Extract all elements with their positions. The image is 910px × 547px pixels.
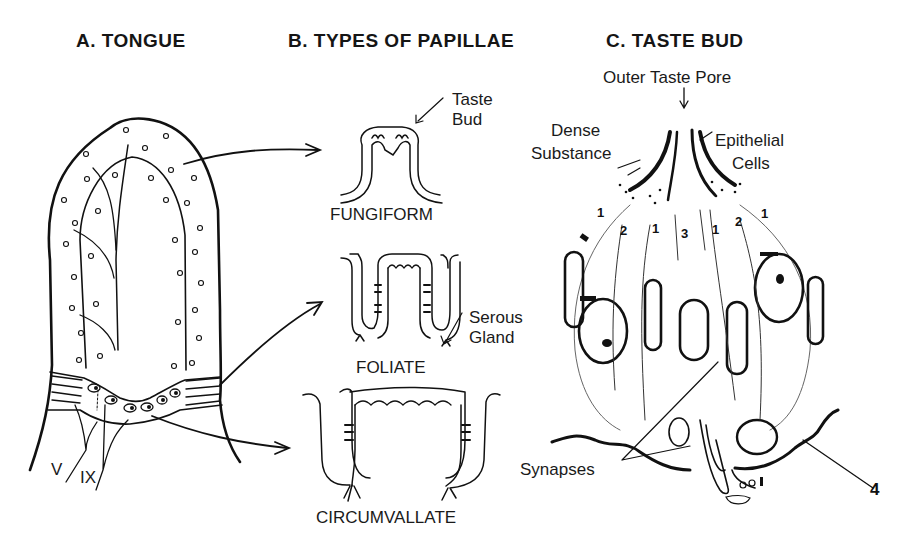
- outer-taste-pore-callout: Outer Taste Pore: [603, 68, 731, 88]
- synapses-callout: Synapses: [520, 460, 595, 480]
- cell-number: 1: [652, 221, 659, 236]
- cell-number: 3: [681, 226, 688, 241]
- dense-substance-callout-line1: Dense: [551, 121, 600, 141]
- taste-anatomy-figure: A. TONGUE B. TYPES OF PAPILLAE C. TASTE …: [0, 0, 910, 547]
- cell-number: 2: [735, 214, 742, 229]
- cell-number: 1: [712, 222, 719, 237]
- cell-number: 2: [620, 223, 627, 238]
- epithelial-cells-callout-line2: Cells: [732, 154, 770, 174]
- epithelial-cells-callout-line1: Epithelial: [715, 131, 784, 151]
- dense-substance-callout-line2: Substance: [531, 144, 611, 164]
- label-4: 4: [870, 480, 879, 500]
- cell-number: 1: [761, 206, 768, 221]
- cell-number: 1: [597, 205, 604, 220]
- taste-bud-diagram: [0, 0, 910, 547]
